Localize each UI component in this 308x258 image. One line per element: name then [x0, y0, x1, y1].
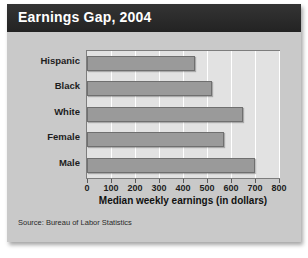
- x-axis-tick-label: 0: [84, 183, 89, 193]
- bar-row: Black: [87, 76, 279, 101]
- bar-row: Hispanic: [87, 51, 279, 76]
- bar: [87, 158, 255, 173]
- chart-body: HispanicBlackWhiteFemaleMale 01002003004…: [7, 32, 301, 242]
- bar: [87, 56, 195, 71]
- x-axis-tick-label: 400: [175, 183, 190, 193]
- category-label: Female: [47, 131, 80, 142]
- gridline: [279, 51, 280, 178]
- x-axis-tick-label: 300: [151, 183, 166, 193]
- x-axis-tick-label: 800: [271, 183, 286, 193]
- chart-title-bar: Earnings Gap, 2004: [7, 4, 301, 32]
- x-axis-tick-label: 600: [223, 183, 238, 193]
- category-label: Male: [59, 157, 80, 168]
- chart-figure: Earnings Gap, 2004 HispanicBlackWhiteFem…: [0, 0, 308, 258]
- x-axis-title: Median weekly earnings (in dollars): [86, 195, 280, 206]
- x-axis-tick-label: 700: [247, 183, 262, 193]
- bar: [87, 107, 243, 122]
- bar-row: Male: [87, 153, 279, 178]
- bar-row: Female: [87, 127, 279, 152]
- source-note: Source: Bureau of Labor Statistics: [18, 218, 132, 227]
- category-label: Black: [55, 80, 80, 91]
- bar: [87, 132, 224, 147]
- plot-area: HispanicBlackWhiteFemaleMale: [86, 50, 280, 179]
- x-axis-tick-label: 100: [103, 183, 118, 193]
- bar-row: White: [87, 102, 279, 127]
- page-title: Earnings Gap, 2004: [18, 9, 152, 25]
- category-label: Hispanic: [40, 55, 80, 66]
- bar: [87, 81, 212, 96]
- x-axis-tick-label: 200: [127, 183, 142, 193]
- x-axis-tick-label: 500: [199, 183, 214, 193]
- category-label: White: [54, 106, 80, 117]
- chart-card: Earnings Gap, 2004 HispanicBlackWhiteFem…: [7, 4, 301, 242]
